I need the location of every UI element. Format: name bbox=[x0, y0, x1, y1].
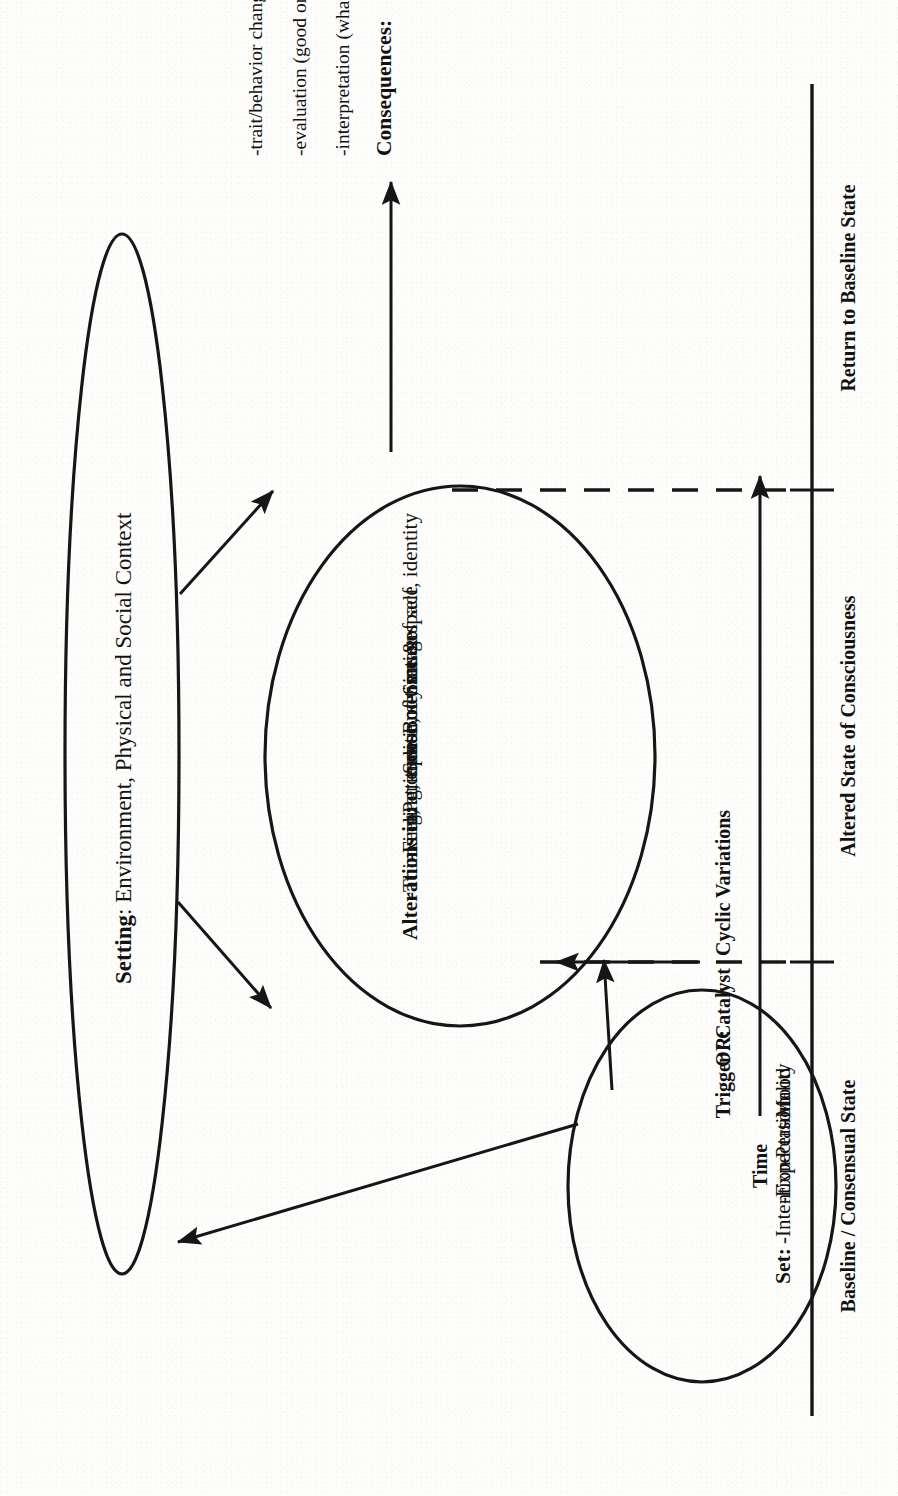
setting-label-rest: : Environment, Physical and Social Conte… bbox=[111, 512, 136, 915]
setting-label-bold: Setting bbox=[111, 914, 136, 984]
timeline-axis-group: Baseline / Consensual State Altered Stat… bbox=[440, 84, 859, 1416]
trigger-label-line2: Cyclic Variations bbox=[712, 810, 735, 956]
altered-state-ellipse[interactable] bbox=[265, 486, 655, 1026]
alteration-item-5: -Sense of self, identity bbox=[398, 513, 422, 702]
diagram-svg: Setting: Environment, Physical and Socia… bbox=[0, 0, 898, 1496]
phase-label-2: Return to Baseline State bbox=[837, 184, 859, 391]
altered-state-ellipse-group[interactable]: Alterations in: -Thinking, attitude -Fee… bbox=[265, 486, 655, 1026]
phase-label-0: Baseline / Consensual State bbox=[837, 1079, 859, 1312]
consequence-item-2: -trait/behavior changes bbox=[245, 0, 266, 156]
time-label: Time bbox=[749, 1144, 771, 1188]
set-heading: Set: bbox=[771, 1248, 795, 1284]
consequences-group: Consequences: -interpretation (what?) -e… bbox=[245, 0, 396, 156]
trigger-or-prefix: OR: bbox=[712, 1030, 734, 1067]
rotated-diagram-canvas: Setting: Environment, Physical and Socia… bbox=[0, 0, 898, 1496]
phase-label-1: Altered State of Consciousness bbox=[837, 595, 859, 857]
scanned-diagram-page: Setting: Environment, Physical and Socia… bbox=[0, 0, 898, 1496]
setting-label: Setting: Environment, Physical and Socia… bbox=[111, 461, 136, 1047]
arrow-setting-to-asc-bottom bbox=[178, 902, 271, 1008]
set-item-3: -Mood bbox=[771, 1067, 795, 1125]
arrow-set-to-asc bbox=[604, 960, 612, 1090]
consequence-item-0: -interpretation (what?) bbox=[332, 0, 354, 156]
consequence-item-1: -evaluation (good or bad?) bbox=[289, 0, 311, 156]
arrow-setting-to-asc-top bbox=[180, 491, 273, 594]
consequences-heading: Consequences: bbox=[372, 20, 396, 156]
arrow-set-to-setting bbox=[178, 1124, 578, 1242]
setting-ellipse-group[interactable]: Setting: Environment, Physical and Socia… bbox=[65, 234, 179, 1274]
